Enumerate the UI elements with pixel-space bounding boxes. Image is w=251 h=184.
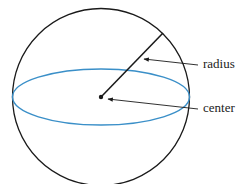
radius-arrow <box>144 59 198 65</box>
radius-line <box>101 33 163 97</box>
center-label: center <box>203 101 235 114</box>
sphere-diagram: radius center <box>0 0 251 184</box>
sphere-drawing <box>0 0 251 184</box>
radius-label: radius <box>203 57 235 70</box>
center-point <box>99 95 103 99</box>
center-arrow <box>108 99 198 109</box>
